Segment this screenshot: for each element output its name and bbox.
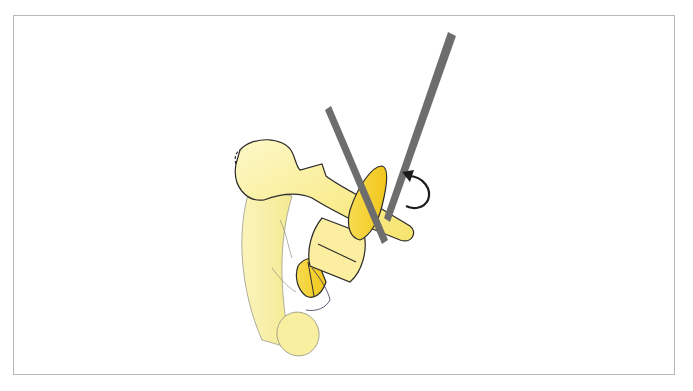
retractor-right <box>384 32 456 222</box>
surgical-illustration <box>0 0 693 391</box>
rotation-arrow-icon <box>402 170 429 208</box>
